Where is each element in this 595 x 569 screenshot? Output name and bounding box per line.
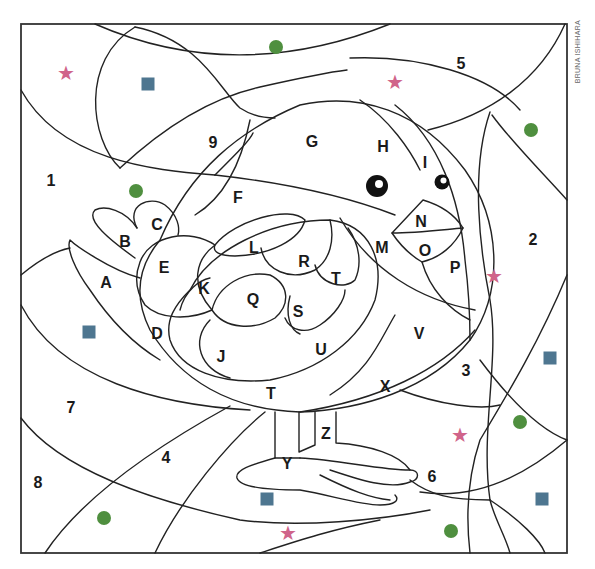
- region-label-letter-l: L: [249, 240, 259, 256]
- region-label-number-8: 8: [34, 475, 43, 491]
- parrot-eye: [435, 175, 450, 190]
- region-label-letter-p: P: [450, 260, 461, 276]
- region-label-letter-z: Z: [321, 426, 331, 442]
- region-label-letter-g: G: [306, 134, 318, 150]
- parrot-eye: [366, 175, 388, 197]
- region-label-number-4: 4: [162, 450, 171, 466]
- star-icon: ★: [279, 523, 297, 543]
- star-icon: ★: [57, 63, 75, 83]
- region-label-number-3: 3: [462, 363, 471, 379]
- region-label-number-2: 2: [529, 232, 538, 248]
- region-label-number-9: 9: [209, 135, 218, 151]
- region-label-letter-k: K: [198, 281, 210, 297]
- region-label-letter-a: A: [100, 275, 112, 291]
- circle-icon: [129, 184, 143, 198]
- region-label-letter-r: R: [298, 254, 310, 270]
- square-icon: [261, 493, 274, 506]
- region-label-number-1: 1: [47, 173, 56, 189]
- region-label-number-7: 7: [67, 400, 76, 416]
- star-icon: ★: [386, 72, 404, 92]
- region-label-letter-t: T: [331, 271, 341, 287]
- region-label-letter-o: O: [419, 243, 431, 259]
- region-label-letter-m: M: [375, 240, 388, 256]
- region-label-letter-y: Y: [282, 456, 293, 472]
- region-label-letter-x: X: [380, 379, 391, 395]
- region-label-letter-b: B: [119, 234, 131, 250]
- circle-icon: [97, 511, 111, 525]
- region-label-letter-v: V: [414, 326, 425, 342]
- region-label-letter-f: F: [233, 190, 243, 206]
- circle-icon: [444, 524, 458, 538]
- region-label-number-5: 5: [457, 56, 466, 72]
- region-label-letter-s: S: [293, 304, 304, 320]
- region-label-letter-i: I: [423, 155, 427, 171]
- circle-icon: [513, 415, 527, 429]
- region-label-letter-c: C: [151, 217, 163, 233]
- region-label-letter-j: J: [217, 349, 226, 365]
- star-icon: ★: [485, 266, 503, 286]
- star-icon: ★: [451, 425, 469, 445]
- coloring-artwork: [0, 0, 595, 569]
- square-icon: [536, 493, 549, 506]
- circle-icon: [524, 123, 538, 137]
- region-label-letter-n: N: [415, 214, 427, 230]
- region-label-letter-e: E: [159, 260, 170, 276]
- region-label-letter-d: D: [151, 326, 163, 342]
- square-icon: [142, 78, 155, 91]
- region-label-number-6: 6: [428, 469, 437, 485]
- region-label-letter-t: T: [266, 386, 276, 402]
- square-icon: [544, 352, 557, 365]
- region-label-letter-h: H: [377, 139, 389, 155]
- region-label-letter-q: Q: [247, 292, 259, 308]
- circle-icon: [269, 40, 283, 54]
- square-icon: [83, 326, 96, 339]
- artist-credit: BRUNA ISHIHARA: [574, 20, 581, 83]
- region-label-letter-u: U: [315, 342, 327, 358]
